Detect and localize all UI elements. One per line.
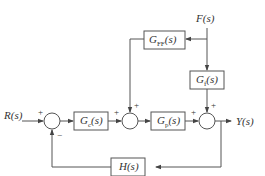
plant-label: Gp(s) bbox=[157, 115, 180, 129]
out-sum-left-plus-sign: + bbox=[191, 108, 196, 117]
error-sum-minus-sign: − bbox=[57, 131, 62, 140]
block-diagram-canvas bbox=[0, 0, 265, 176]
out-sum-top-plus-sign: + bbox=[211, 101, 216, 110]
output-summing-junction bbox=[199, 113, 215, 129]
feedforward-label: GFF(s) bbox=[149, 34, 176, 48]
error-summing-junction bbox=[44, 113, 60, 129]
input-label: R(s) bbox=[4, 110, 22, 121]
feedforward-summing-junction bbox=[122, 113, 138, 129]
ff-sum-top-plus-sign: + bbox=[134, 101, 139, 110]
ff-sum-left-plus-sign: + bbox=[114, 108, 119, 117]
error-sum-plus-sign: + bbox=[38, 108, 43, 117]
feedback-label: H(s) bbox=[119, 161, 139, 172]
disturbance-label: F(s) bbox=[196, 13, 214, 24]
output-label: Y(s) bbox=[236, 116, 254, 127]
disturbance-path-label: Gf(s) bbox=[196, 74, 218, 88]
controller-label: Gc(s) bbox=[80, 115, 103, 129]
